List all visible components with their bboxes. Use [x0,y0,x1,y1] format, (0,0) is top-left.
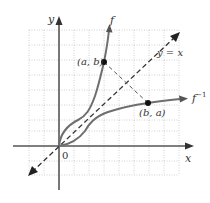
f-label: f [109,14,116,27]
y-axis-label: y [47,13,55,26]
y-axis-arrow-icon [56,16,63,25]
x-axis-arrow-icon [185,143,194,150]
identity-arrow-up-icon [170,32,180,42]
curve-f [59,30,109,146]
x-axis-label: x [185,152,192,165]
f-inverse-label: f−1 [191,91,206,105]
point-b-a [145,100,151,106]
origin-label: 0 [62,150,68,161]
inverse-function-diagram: y x 0 f y = x f−1 (a, b) (b, a) [0,0,210,203]
curve-f-inverse-arrow-icon [179,96,188,103]
point-a-b-label: (a, b) [77,56,104,67]
point-b-a-label: (b, a) [139,107,166,118]
reflection-segment [104,62,148,103]
identity-arrow-down-icon [28,166,38,176]
identity-label: y = x [156,47,183,58]
